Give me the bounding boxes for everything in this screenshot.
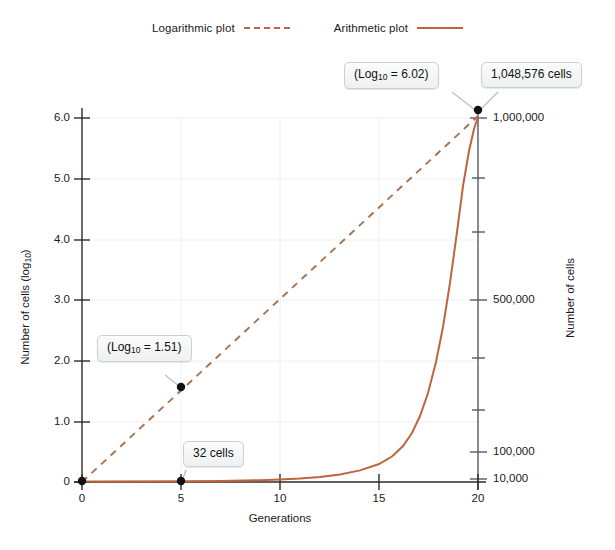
callout-leader-lines (165, 92, 498, 481)
callout-32-cells: 32 cells (183, 441, 244, 467)
callout-log-6-02-text: (Log (354, 67, 378, 81)
callout-log-1-51-text: (Log (107, 340, 131, 354)
data-point-generation-20 (474, 106, 482, 114)
y-axis-left-title-text: Number of cells (log (19, 263, 31, 365)
x-axis-title: Generations (0, 512, 560, 524)
y-right-tick-100000: 100,000 (493, 445, 535, 457)
y-right-tick-1000000: 1,000,000 (493, 111, 544, 123)
y-axis-left-title: Number of cells (log10) (19, 237, 33, 377)
x-tick-5: 5 (161, 492, 201, 504)
callout-log-6-02-value: = 6.02) (388, 67, 429, 81)
y-left-tick-2: 2.0 (32, 354, 70, 366)
callout-log-1-51-value: = 1.51) (141, 340, 182, 354)
y-left-tick-3: 3.0 (32, 293, 70, 305)
x-tick-10: 10 (260, 492, 300, 504)
callout-log-1-51: (Log10 = 1.51) (97, 335, 192, 362)
x-tick-0: 0 (62, 492, 102, 504)
y-right-tick-500000: 500,000 (493, 293, 535, 305)
y-left-tick-0: 0 (32, 475, 70, 487)
data-point-generation-5-log (177, 383, 185, 391)
y-left-tick-4: 4.0 (32, 233, 70, 245)
chart-figure: Logarithmic plot Arithmetic plot (0, 0, 615, 550)
y-right-tick-10000: 10,000 (493, 472, 528, 484)
y-axis-left-title-close: ) (19, 249, 31, 253)
data-point-generation-0 (78, 477, 86, 485)
callout-log-1-51-subscript: 10 (131, 345, 140, 355)
y-left-tick-5: 5.0 (32, 172, 70, 184)
y-left-tick-1: 1.0 (32, 415, 70, 427)
y-axis-right-title: Number of cells (564, 228, 576, 368)
callout-log-6-02-subscript: 10 (378, 72, 387, 82)
y-axis-left-title-subscript: 10 (23, 253, 33, 262)
data-point-generation-5-arith (177, 477, 185, 485)
y-left-tick-6: 6.0 (32, 111, 70, 123)
x-tick-20: 20 (458, 492, 498, 504)
callout-log-6-02: (Log10 = 6.02) (344, 62, 439, 89)
callout-1048576-cells: 1,048,576 cells (481, 62, 582, 88)
x-tick-15: 15 (359, 492, 399, 504)
